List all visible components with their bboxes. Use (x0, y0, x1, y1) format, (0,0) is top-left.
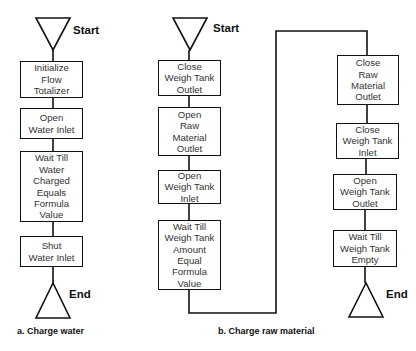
step-wait-till-weigh-tank-amount: Wait Till Weigh Tank Amount Equal Formul… (158, 220, 221, 290)
step-open-raw-material-outlet: Open Raw Material Outlet (158, 107, 221, 156)
step-wait-till-water-charged: Wait Till Water Charged Equals Formula V… (20, 151, 83, 222)
step-close-raw-material-outlet: Close Raw Material Outlet (337, 55, 399, 105)
end-label-a: End (69, 288, 91, 300)
step-open-water-inlet: Open Water Inlet (20, 108, 83, 139)
step-open-weigh-tank-inlet: Open Weigh Tank Inlet (158, 170, 221, 204)
start-triangle-a (36, 18, 70, 50)
start-triangle-b (173, 18, 207, 50)
start-label-b: Start (213, 22, 239, 34)
start-label-a: Start (73, 24, 99, 36)
end-label-b: End (386, 288, 408, 300)
caption-a: a. Charge water (17, 326, 84, 336)
step-open-weigh-tank-outlet: Open Weigh Tank Outlet (333, 174, 397, 210)
step-close-weigh-tank-inlet: Close Weigh Tank Inlet (336, 123, 399, 159)
end-triangle-b (349, 283, 383, 317)
caption-b: b. Charge raw material (218, 326, 315, 336)
end-triangle-a (36, 283, 70, 318)
step-wait-till-weigh-tank-empty: Wait Till Weigh Tank Empty (333, 230, 397, 267)
step-initialize-flow-totalizer: Initialize Flow Totalizer (20, 61, 83, 98)
step-close-weigh-tank-outlet: Close Weigh Tank Outlet (158, 60, 221, 96)
step-shut-water-inlet: Shut Water Inlet (20, 236, 83, 267)
